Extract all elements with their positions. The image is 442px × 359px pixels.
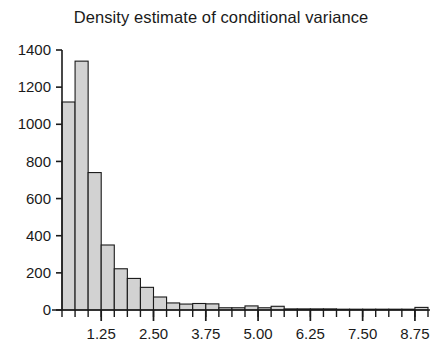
x-tick-label: 1.25 [87,325,116,342]
y-tick-label: 1400 [18,41,51,58]
histogram-bar [127,278,140,310]
histogram-bar [101,245,114,310]
x-tick-label: 5.00 [243,325,272,342]
chart-figure: Density estimate of conditional variance… [0,0,442,359]
histogram-bar [167,303,180,310]
histogram-bar [75,61,88,310]
y-tick-label: 400 [26,227,51,244]
histogram-bar [154,297,167,310]
y-tick-label: 0 [43,301,51,318]
histogram-bar [193,304,206,311]
histogram-bar [88,173,101,310]
histogram-bar [140,287,153,310]
y-tick-label: 200 [26,264,51,281]
histogram-plot: 02004006008001000120014001.252.503.755.0… [0,0,442,359]
bar-group [62,61,428,310]
y-axis-ticks: 0200400600800100012001400 [18,41,62,318]
histogram-bar [62,102,75,310]
x-tick-label: 6.25 [296,325,325,342]
x-tick-label: 8.75 [400,325,429,342]
x-axis-ticks: 1.252.503.755.006.257.508.75 [62,310,430,342]
x-tick-label: 2.50 [139,325,168,342]
y-tick-label: 600 [26,190,51,207]
x-tick-label: 3.75 [191,325,220,342]
histogram-bar [206,304,219,310]
y-tick-label: 1200 [18,78,51,95]
x-tick-label: 7.50 [348,325,377,342]
histogram-bar [180,304,193,310]
y-tick-label: 1000 [18,115,51,132]
y-tick-label: 800 [26,153,51,170]
histogram-bar [114,269,127,310]
